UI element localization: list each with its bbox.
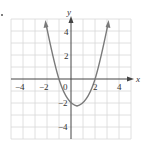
x-axis-label: x xyxy=(135,74,140,84)
y-axis-label: y xyxy=(66,7,71,17)
tick-x-2: 2 xyxy=(93,82,98,92)
tick-labels: x y −4 −2 0 2 4 4 2 −2 −4 xyxy=(15,7,140,132)
tick-x-neg4: −4 xyxy=(15,82,25,92)
parabola-chart: x y −4 −2 0 2 4 4 2 −2 −4 xyxy=(0,0,143,146)
axes xyxy=(11,20,130,139)
tick-y-2: 2 xyxy=(64,51,69,61)
tick-y-4: 4 xyxy=(64,27,69,37)
tick-x-4: 4 xyxy=(117,82,122,92)
y-axis-arrow-icon xyxy=(69,16,74,23)
curve-arrow-right-icon xyxy=(106,20,111,28)
tick-x-neg2: −2 xyxy=(39,82,49,92)
parabola-curve xyxy=(46,26,107,106)
curve-arrow-left-icon xyxy=(44,20,49,28)
tick-x-0: 0 xyxy=(63,82,68,92)
tick-y-neg4: −4 xyxy=(58,122,68,132)
x-axis-arrow-icon xyxy=(127,77,134,82)
tick-y-neg2: −2 xyxy=(58,98,68,108)
